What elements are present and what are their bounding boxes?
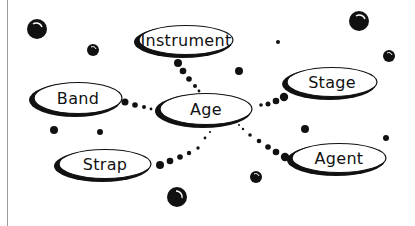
node-label-agent: Agent	[315, 149, 364, 168]
edge-age-strap	[156, 131, 211, 169]
node-strap[interactable]: Strap	[59, 150, 151, 178]
bubble-icon	[349, 11, 369, 31]
node-label-stage: Stage	[308, 73, 356, 92]
node-label-instrument: Instrument	[140, 31, 231, 50]
bubble-icon	[301, 125, 309, 133]
bubble-icon	[383, 135, 389, 141]
node-label-band: Band	[57, 89, 99, 108]
bubble-icon	[27, 19, 47, 39]
node-band[interactable]: Band	[34, 84, 122, 112]
bubble-icon	[235, 67, 243, 75]
node-label-age: Age	[190, 100, 222, 119]
node-stage[interactable]: Stage	[287, 68, 377, 96]
bubble-icon	[276, 40, 280, 44]
edge-age-agent	[238, 124, 289, 161]
node-age[interactable]: Age	[160, 95, 252, 123]
edge-age-band	[122, 99, 153, 111]
node-instrument[interactable]: Instrument	[139, 26, 233, 54]
bubble-icon	[250, 171, 262, 183]
bubble-icon	[167, 187, 187, 207]
bubble-icon	[87, 44, 99, 56]
bubble-icon	[383, 50, 395, 62]
edge-age-instrument	[174, 59, 200, 92]
node-agent[interactable]: Agent	[292, 144, 386, 172]
bubble-icon	[97, 129, 103, 135]
edge-age-stage	[259, 93, 288, 107]
bubble-icon	[50, 126, 58, 134]
node-label-strap: Strap	[83, 155, 127, 174]
